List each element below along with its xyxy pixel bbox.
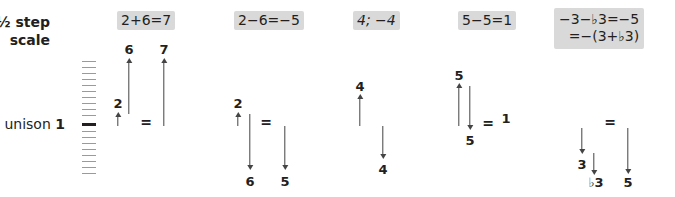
interval-label-2: 2 bbox=[233, 97, 242, 111]
equation-line2: =−(3+♭3) bbox=[559, 28, 639, 45]
interval-label-5: 5 bbox=[623, 176, 632, 190]
equals-sign: = bbox=[604, 115, 616, 129]
arrow-down-icon bbox=[469, 86, 470, 128]
equation-badge: 5−5=1 bbox=[458, 11, 516, 30]
equals-sign: = bbox=[260, 115, 272, 129]
equals-sign: = bbox=[482, 116, 494, 130]
arrow-up-icon bbox=[117, 114, 118, 126]
scale-tick bbox=[82, 149, 96, 150]
scale-tick bbox=[82, 109, 96, 110]
arrow-up-icon bbox=[458, 85, 459, 126]
unison-number: 1 bbox=[55, 116, 65, 132]
arrow-down-icon bbox=[382, 126, 383, 157]
unison-label: unison 1 bbox=[4, 115, 65, 133]
scale-tick bbox=[82, 161, 96, 162]
scale-tick bbox=[82, 137, 96, 138]
scale-tick bbox=[82, 167, 96, 168]
interval-label-5: 5 bbox=[280, 175, 289, 189]
interval-label-6: 6 bbox=[124, 43, 133, 57]
arrow-up-icon bbox=[163, 60, 164, 126]
scale-tick bbox=[82, 79, 96, 80]
scale-title-line2: scale bbox=[0, 31, 50, 49]
arrow-up-icon bbox=[359, 96, 360, 126]
interval-label-5-down: 5 bbox=[465, 134, 474, 148]
equation-badge: −3−♭3=−5 =−(3+♭3) bbox=[554, 8, 644, 49]
scale-tick bbox=[82, 173, 96, 174]
interval-label-6: 6 bbox=[245, 175, 254, 189]
scale-tick bbox=[82, 143, 96, 144]
scale-tick bbox=[82, 115, 96, 116]
arrow-down-icon bbox=[249, 114, 250, 168]
arrow-down-icon bbox=[284, 126, 285, 168]
arrow-up-icon bbox=[237, 114, 238, 126]
scale-tick bbox=[82, 67, 96, 68]
scale-tick bbox=[82, 73, 96, 74]
equation-badge: 2+6=7 bbox=[117, 11, 175, 30]
arrow-down-icon bbox=[627, 128, 628, 172]
equation-badge: 2−6=−5 bbox=[234, 11, 304, 30]
scale-tick bbox=[82, 131, 96, 132]
interval-label-5-up: 5 bbox=[454, 69, 463, 83]
scale-tick bbox=[82, 155, 96, 156]
scale-tick bbox=[82, 85, 96, 86]
arrow-down-icon bbox=[593, 153, 594, 173]
arrow-up-icon bbox=[128, 60, 129, 114]
interval-label-1: 1 bbox=[501, 112, 510, 126]
unison-word: unison bbox=[4, 116, 50, 132]
scale-tick bbox=[82, 97, 96, 98]
scale-tick bbox=[82, 61, 96, 62]
interval-label-2: 2 bbox=[113, 97, 122, 111]
interval-label-4-up: 4 bbox=[355, 80, 364, 94]
interval-label-3: 3 bbox=[577, 158, 586, 172]
equals-sign: = bbox=[140, 115, 152, 129]
interval-label-flat-3: ♭3 bbox=[588, 176, 603, 190]
scale-tick bbox=[82, 103, 96, 104]
equation-line1: −3−♭3=−5 bbox=[559, 11, 639, 27]
equation-badge: 4; −4 bbox=[353, 11, 400, 30]
half-step-scale-title: ½ step scale bbox=[0, 13, 50, 49]
scale-tick bbox=[82, 91, 96, 92]
interval-label-4-down: 4 bbox=[378, 163, 387, 177]
scale-title-line1: ½ step bbox=[0, 13, 50, 31]
arrow-down-icon bbox=[581, 128, 582, 152]
scale-tick-unison bbox=[82, 123, 96, 126]
interval-label-7: 7 bbox=[159, 43, 168, 57]
